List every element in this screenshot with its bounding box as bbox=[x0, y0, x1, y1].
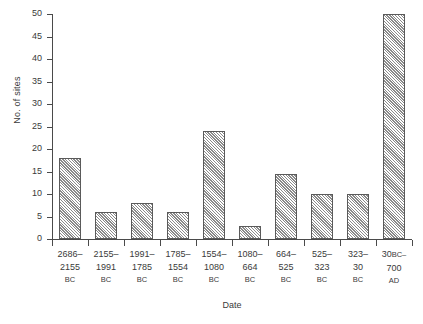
era-label: BC bbox=[304, 274, 340, 287]
x-axis-tick bbox=[232, 240, 233, 246]
x-axis-tick bbox=[340, 240, 341, 246]
x-axis-category-label: 1991–1785BC bbox=[124, 248, 160, 287]
bar bbox=[347, 194, 369, 239]
x-axis-category-label: 2686–2155BC bbox=[52, 248, 88, 287]
bar bbox=[59, 158, 81, 239]
y-axis-tick: 40 bbox=[47, 59, 53, 60]
x-axis-category-label: 1785–1554BC bbox=[160, 248, 196, 287]
x-axis-tick bbox=[304, 240, 305, 246]
x-axis-tick bbox=[412, 240, 413, 246]
bar bbox=[203, 131, 225, 239]
x-axis-category-label: 1554–1080BC bbox=[196, 248, 232, 287]
y-axis-tick: 35 bbox=[47, 82, 53, 83]
bar bbox=[95, 212, 117, 239]
y-axis-tick-label: 50 bbox=[32, 8, 42, 18]
y-axis-title: No. of sites bbox=[12, 45, 22, 155]
bar bbox=[239, 226, 261, 240]
y-axis-tick: 50 bbox=[47, 14, 53, 15]
y-axis-tick-label: 15 bbox=[32, 166, 42, 176]
y-axis-tick-label: 40 bbox=[32, 53, 42, 63]
era-label: BC bbox=[232, 274, 268, 287]
era-label: BC bbox=[52, 274, 88, 287]
x-axis-category-label: 2155–1991BC bbox=[88, 248, 124, 287]
era-label: BC bbox=[196, 274, 232, 287]
x-axis-category-label: 664–525BC bbox=[268, 248, 304, 287]
y-axis-tick: 45 bbox=[47, 37, 53, 38]
bar-chart: No. of sites 05101520253035404550 2686–2… bbox=[0, 0, 423, 324]
x-axis-tick bbox=[88, 240, 89, 246]
y-axis-tick-label: 45 bbox=[32, 31, 42, 41]
bar bbox=[311, 194, 333, 239]
y-axis-tick: 10 bbox=[47, 194, 53, 195]
x-axis-category-label: 525–323BC bbox=[304, 248, 340, 287]
x-axis-category-label: 323–30BC bbox=[340, 248, 376, 287]
bar bbox=[167, 212, 189, 239]
y-axis-tick-label: 10 bbox=[32, 188, 42, 198]
plot-area: 05101520253035404550 bbox=[52, 14, 412, 239]
y-axis-tick-label: 35 bbox=[32, 76, 42, 86]
x-axis-tick bbox=[160, 240, 161, 246]
x-axis-category-label: 30BC–700AD bbox=[376, 248, 412, 288]
y-axis-tick-label: 0 bbox=[37, 233, 42, 243]
x-axis-title: Date bbox=[52, 300, 412, 310]
x-axis-tick bbox=[376, 240, 377, 246]
x-axis-tick bbox=[268, 240, 269, 246]
era-label: BC bbox=[268, 274, 304, 287]
era-label: BC bbox=[340, 274, 376, 287]
y-axis-tick: 5 bbox=[47, 217, 53, 218]
x-axis-tick bbox=[124, 240, 125, 246]
y-axis-tick: 15 bbox=[47, 172, 53, 173]
y-axis-tick: 30 bbox=[47, 104, 53, 105]
y-axis-tick-label: 30 bbox=[32, 98, 42, 108]
y-axis-tick: 20 bbox=[47, 149, 53, 150]
era-label: BC bbox=[160, 274, 196, 287]
era-label: AD bbox=[376, 275, 412, 288]
bar bbox=[275, 174, 297, 239]
era-label: BC bbox=[124, 274, 160, 287]
era-label: BC bbox=[88, 274, 124, 287]
x-axis-tick bbox=[52, 240, 53, 246]
bar bbox=[131, 203, 153, 239]
y-axis-tick-label: 20 bbox=[32, 143, 42, 153]
y-axis-tick: 25 bbox=[47, 127, 53, 128]
x-axis-category-label: 1080–664BC bbox=[232, 248, 268, 287]
bar bbox=[383, 14, 405, 239]
x-axis-tick bbox=[196, 240, 197, 246]
y-axis-tick-label: 5 bbox=[37, 211, 42, 221]
y-axis-tick-label: 25 bbox=[32, 121, 42, 131]
